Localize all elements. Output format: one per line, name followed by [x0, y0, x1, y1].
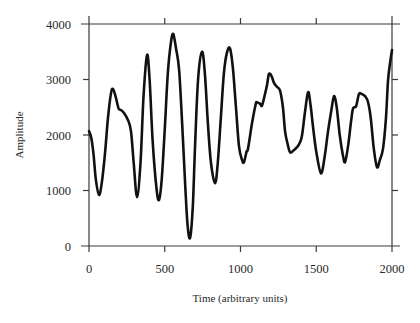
y-axis-title: Amplitude [13, 111, 25, 158]
x-axis-title: Time (arbitrary units) [193, 292, 288, 305]
y-tick-labels: 01000200030004000 [46, 18, 71, 254]
y-tick-label: 2000 [46, 129, 71, 143]
series-group [89, 34, 392, 239]
series-line-amplitude [89, 34, 392, 239]
x-tick-label: 0 [86, 262, 92, 276]
y-tick-label: 0 [65, 240, 71, 254]
x-tick-label: 500 [155, 262, 174, 276]
x-tick-label: 1000 [228, 262, 253, 276]
y-tick-label: 4000 [46, 18, 71, 32]
line-chart: 0500100015002000 01000200030004000 Time … [0, 0, 420, 323]
x-tick-labels: 0500100015002000 [86, 262, 405, 276]
y-tick-label: 3000 [46, 73, 71, 87]
x-tick-label: 2000 [380, 262, 405, 276]
plot-frame [81, 16, 400, 252]
y-tick-label: 1000 [46, 184, 71, 198]
x-tick-label: 1500 [304, 262, 329, 276]
